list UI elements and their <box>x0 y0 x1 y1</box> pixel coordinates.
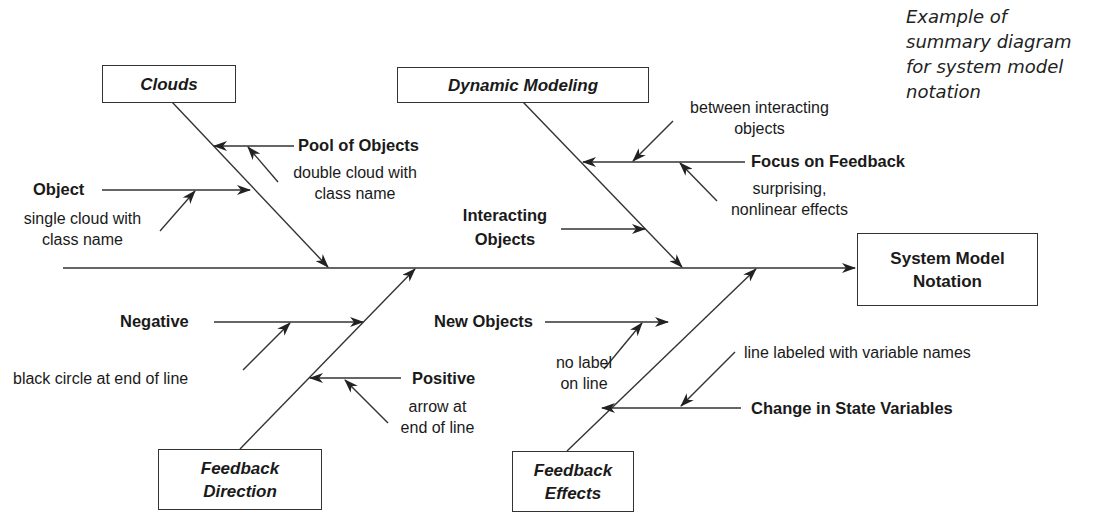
note-line: class name <box>285 183 425 204</box>
category-box-clouds: Clouds <box>102 65 236 103</box>
label-line: Objects <box>450 229 560 250</box>
note-line: single cloud with <box>5 208 160 229</box>
category-title: Effects <box>534 482 612 505</box>
note-positive: arrow at end of line <box>385 396 490 438</box>
cause-pool-of-objects: Pool of Objects <box>298 135 419 156</box>
note-line: nonlinear effects <box>707 199 872 220</box>
label-line: Interacting <box>450 205 560 226</box>
note-line: objects <box>672 118 847 139</box>
cause-change-in-state-variables: Change in State Variables <box>751 398 953 419</box>
cause-new-objects: New Objects <box>434 311 533 332</box>
note-line: surprising, <box>707 178 872 199</box>
effect-label: System Model <box>890 247 1004 270</box>
category-box-feedback-direction: Feedback Direction <box>158 449 322 510</box>
note-object: single cloud with class name <box>5 208 160 250</box>
category-title: Direction <box>201 480 279 503</box>
note-pool-of-objects: double cloud with class name <box>285 162 425 204</box>
cause-positive: Positive <box>412 368 475 389</box>
note-surprising-nonlinear-effects: surprising, nonlinear effects <box>707 178 872 220</box>
effect-label: Notation <box>890 270 1004 293</box>
cause-interacting-objects: Interacting Objects <box>450 205 560 250</box>
cause-focus-on-feedback: Focus on Feedback <box>751 151 905 172</box>
focus-note-above-arrow <box>633 121 673 161</box>
note-line: arrow at <box>385 396 490 417</box>
category-title: Dynamic Modeling <box>448 74 598 97</box>
object-note-arrow <box>160 191 195 231</box>
negative-note-arrow <box>243 323 290 370</box>
caption-line: for system model <box>906 54 1072 79</box>
category-box-feedback-effects: Feedback Effects <box>512 451 634 512</box>
positive-note-arrow <box>345 380 388 423</box>
note-line: on line <box>549 373 619 394</box>
note-between-interacting-objects: between interacting objects <box>672 97 847 139</box>
caption-line: notation <box>906 79 1072 104</box>
caption-line: summary diagram <box>906 29 1072 54</box>
cause-negative: Negative <box>120 311 189 332</box>
change-state-note-arrow <box>681 352 735 406</box>
category-title: Feedback <box>534 459 612 482</box>
note-change-in-state-variables: line labeled with variable names <box>744 342 971 363</box>
category-title: Feedback <box>201 457 279 480</box>
figure-caption: Example of summary diagram for system mo… <box>906 4 1072 104</box>
category-title: Clouds <box>140 73 198 96</box>
note-new-objects: no label on line <box>549 352 619 394</box>
effect-box-system-model-notation: System Model Notation <box>857 233 1038 306</box>
note-line: class name <box>5 229 160 250</box>
note-line: double cloud with <box>285 162 425 183</box>
note-line: between interacting <box>672 97 847 118</box>
category-box-dynamic-modeling: Dynamic Modeling <box>397 67 649 103</box>
pool-note-arrow <box>248 147 278 182</box>
note-line: end of line <box>385 417 490 438</box>
note-line: no label <box>549 352 619 373</box>
note-negative: black circle at end of line <box>13 368 188 389</box>
cause-object: Object <box>33 179 84 200</box>
caption-line: Example of <box>906 4 1072 29</box>
